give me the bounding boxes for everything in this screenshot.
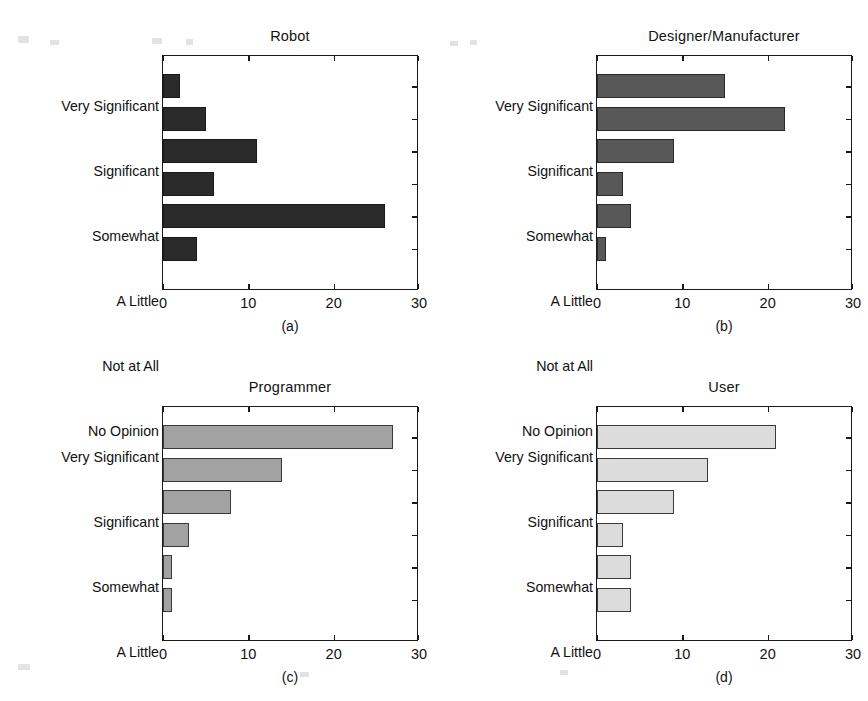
panel-c-plot-area: Very SignificantSignificantSomewhatA Lit… [163, 407, 417, 640]
x-axis-tick [682, 407, 683, 412]
bar: Somewhat [163, 490, 231, 514]
x-axis-tick-label: 10 [674, 646, 690, 662]
x-axis-tick [768, 635, 769, 640]
chart-panel-a: Robot Very SignificantSignificantSomewha… [0, 0, 434, 350]
y-axis-tick-label: A Little [116, 640, 159, 664]
y-axis-tick [846, 119, 851, 120]
bar: Not at All [597, 204, 631, 228]
x-axis-tick [418, 635, 419, 640]
bar: Not at All [597, 555, 631, 579]
y-axis-tick [846, 249, 851, 250]
x-axis-tick [852, 407, 853, 412]
bar: A Little [163, 172, 214, 196]
y-axis-tick-label: Significant [528, 159, 593, 183]
y-axis-tick [412, 119, 417, 120]
panel-d-plot-area: Very SignificantSignificantSomewhatA Lit… [597, 407, 851, 640]
y-axis-tick [846, 535, 851, 536]
x-axis-tick [334, 284, 335, 289]
bar: Very Significant [163, 425, 393, 449]
y-axis-tick [412, 567, 417, 568]
y-axis-tick-label: Significant [94, 510, 159, 534]
x-axis-tick [597, 284, 598, 289]
chart-panel-c: Programmer Very SignificantSignificantSo… [0, 351, 434, 701]
y-axis-tick [846, 437, 851, 438]
x-axis-tick [248, 635, 249, 640]
x-axis-tick-label: 30 [411, 295, 427, 311]
x-axis-tick-label: 0 [159, 646, 167, 662]
y-axis-tick [412, 216, 417, 217]
x-axis-tick [768, 407, 769, 412]
x-axis-tick [418, 56, 419, 61]
x-axis-tick [852, 284, 853, 289]
x-axis-tick [682, 635, 683, 640]
y-axis-tick [412, 437, 417, 438]
panel-b-plot-area: Very SignificantSignificantSomewhatA Lit… [597, 56, 851, 289]
chart-panel-b: Designer/Manufacturer Very SignificantSi… [434, 0, 868, 350]
bar: Not at All [163, 204, 385, 228]
y-axis-tick-label: Significant [528, 510, 593, 534]
x-axis-tick [768, 284, 769, 289]
x-axis-tick-label: 20 [760, 295, 776, 311]
y-axis-tick-label: Somewhat [92, 575, 159, 599]
x-axis-tick-label: 0 [593, 295, 601, 311]
bar: A Little [163, 523, 189, 547]
panel-b-title: Designer/Manufacturer [596, 28, 852, 44]
figure-canvas: Robot Very SignificantSignificantSomewha… [0, 0, 868, 701]
x-axis-tick [163, 407, 164, 412]
y-axis-tick [846, 600, 851, 601]
panel-b-caption: (b) [596, 318, 852, 334]
x-axis-tick [248, 56, 249, 61]
x-axis-tick-label: 0 [159, 295, 167, 311]
y-axis-tick-label: Somewhat [526, 575, 593, 599]
x-axis-tick [418, 284, 419, 289]
bar: Somewhat [597, 490, 674, 514]
x-axis-tick-label: 10 [240, 295, 256, 311]
x-axis-tick-label: 30 [411, 646, 427, 662]
x-axis-tick [163, 635, 164, 640]
panel-c-caption: (c) [162, 669, 418, 685]
x-axis-tick [163, 284, 164, 289]
x-axis-tick [682, 56, 683, 61]
bar: No Opinion [163, 237, 197, 261]
x-axis-tick [334, 56, 335, 61]
y-axis-tick-label: Very Significant [61, 94, 159, 118]
y-axis-tick [846, 470, 851, 471]
x-axis-tick-label: 10 [674, 295, 690, 311]
y-axis-tick [412, 502, 417, 503]
chart-panel-d: User Very SignificantSignificantSomewhat… [434, 351, 868, 701]
bar: Very Significant [597, 74, 725, 98]
panel-a-axes: Very SignificantSignificantSomewhatA Lit… [162, 55, 418, 290]
panel-d-title: User [596, 379, 852, 395]
y-axis-tick-label: Very Significant [495, 445, 593, 469]
bar: Not at All [163, 555, 172, 579]
x-axis-tick-label: 20 [760, 646, 776, 662]
bar: No Opinion [163, 588, 172, 612]
y-axis-tick-label: Very Significant [61, 445, 159, 469]
x-axis-tick [418, 407, 419, 412]
bar: Very Significant [163, 74, 180, 98]
bar: A Little [597, 172, 623, 196]
y-axis-tick-label: Significant [94, 159, 159, 183]
y-axis-tick [412, 535, 417, 536]
bar: A Little [597, 523, 623, 547]
x-axis-tick [682, 284, 683, 289]
bar: Very Significant [597, 425, 776, 449]
bar: Somewhat [597, 139, 674, 163]
y-axis-tick-label: Somewhat [92, 224, 159, 248]
panel-c-axes: Very SignificantSignificantSomewhatA Lit… [162, 406, 418, 641]
y-axis-tick [412, 249, 417, 250]
panel-a-plot-area: Very SignificantSignificantSomewhatA Lit… [163, 56, 417, 289]
x-axis-tick [334, 635, 335, 640]
y-axis-tick-label: A Little [550, 289, 593, 313]
y-axis-tick-label: Somewhat [526, 224, 593, 248]
y-axis-tick-label: A Little [550, 640, 593, 664]
y-axis-tick [412, 86, 417, 87]
x-axis-tick [852, 56, 853, 61]
bar: No Opinion [597, 237, 606, 261]
bar: Significant [597, 107, 785, 131]
x-axis-tick-label: 20 [326, 646, 342, 662]
x-axis-tick [597, 56, 598, 61]
x-axis-tick-label: 30 [845, 646, 861, 662]
y-axis-tick [846, 502, 851, 503]
y-axis-tick [412, 470, 417, 471]
